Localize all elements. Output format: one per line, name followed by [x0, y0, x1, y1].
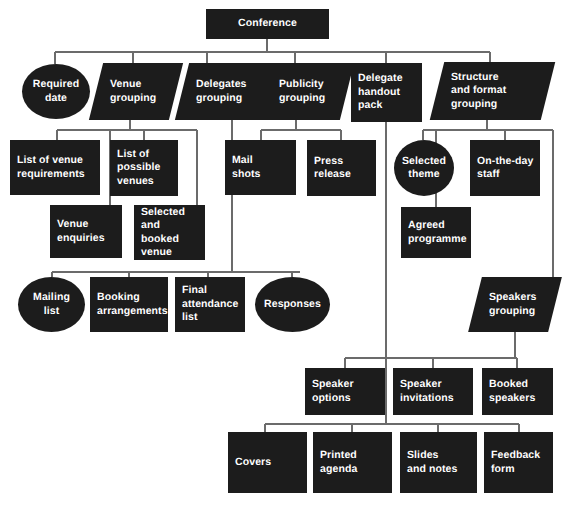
node-publicity-grouping[interactable]: Publicitygrouping	[265, 63, 347, 120]
node-conference[interactable]: Conference	[206, 9, 329, 39]
node-label: Selected andbookedvenue	[141, 206, 201, 260]
node-final-attendance-list[interactable]: Finalattendancelist	[175, 277, 245, 332]
node-label: Covers	[235, 456, 303, 470]
node-label: List of venuerequirements	[17, 154, 96, 181]
node-label: Speakersgrouping	[475, 291, 555, 318]
node-mailing-list[interactable]: Mailinglist	[18, 277, 85, 332]
node-label: Bookingarrangements	[97, 291, 164, 318]
node-feedback-form[interactable]: Feedbackform	[484, 432, 553, 493]
node-responses[interactable]: Responses	[255, 277, 330, 332]
node-structure-and-format-grouping[interactable]: Structureand formatgrouping	[437, 62, 548, 120]
node-label: Venuegrouping	[96, 78, 176, 105]
node-label: Slidesand notes	[407, 449, 473, 476]
node-speaker-invitations[interactable]: Speakerinvitations	[393, 368, 473, 415]
node-label: Publicitygrouping	[265, 78, 347, 105]
node-venue-grouping[interactable]: Venuegrouping	[96, 63, 176, 120]
node-on-the-day-staff[interactable]: On-the-daystaff	[470, 140, 540, 196]
node-label: Finalattendancelist	[182, 284, 241, 325]
node-selected-theme[interactable]: Selectedtheme	[394, 140, 454, 196]
node-label: Conference	[206, 17, 329, 31]
node-label: On-the-daystaff	[477, 155, 536, 182]
node-label: Venueenquiries	[57, 218, 118, 245]
node-covers[interactable]: Covers	[228, 432, 307, 493]
node-speakers-grouping[interactable]: Speakersgrouping	[475, 277, 555, 332]
node-label: Agreedprogramme	[408, 219, 467, 246]
node-label: Selectedtheme	[394, 155, 454, 182]
node-printed-agenda[interactable]: Printedagenda	[313, 432, 392, 493]
node-delegates-grouping[interactable]: Delegatesgrouping	[182, 63, 266, 120]
node-label: Printedagenda	[320, 449, 388, 476]
node-label: Delegatesgrouping	[182, 78, 266, 105]
node-label: Mailinglist	[18, 291, 85, 318]
node-label: Speakerinvitations	[400, 378, 469, 405]
node-label: Pressrelease	[314, 155, 372, 182]
node-label: Mailshots	[232, 154, 292, 181]
node-required-date[interactable]: Requireddate	[22, 64, 90, 119]
node-list-of-venue-requirements[interactable]: List of venuerequirements	[10, 140, 100, 195]
node-list-of-possible-venues[interactable]: List ofpossiblevenues	[110, 140, 178, 196]
node-agreed-programme[interactable]: Agreedprogramme	[401, 207, 471, 258]
node-selected-and-booked-venue[interactable]: Selected andbookedvenue	[134, 205, 205, 260]
node-label: Speakeroptions	[312, 378, 381, 405]
node-label: Structureand formatgrouping	[437, 71, 548, 112]
node-label: List ofpossiblevenues	[117, 148, 174, 189]
node-delegate-handout-pack[interactable]: Delegatehandoutpack	[351, 63, 422, 122]
node-venue-enquiries[interactable]: Venueenquiries	[50, 205, 122, 258]
node-label: Delegatehandoutpack	[358, 72, 418, 113]
node-label: Responses	[255, 298, 330, 312]
node-speaker-options[interactable]: Speakeroptions	[305, 368, 385, 415]
node-mail-shots[interactable]: Mailshots	[225, 140, 296, 195]
node-press-release[interactable]: Pressrelease	[307, 140, 376, 196]
node-label: Feedbackform	[491, 449, 549, 476]
node-slides-and-notes[interactable]: Slidesand notes	[400, 432, 477, 493]
node-booking-arrangements[interactable]: Bookingarrangements	[90, 277, 168, 332]
diagram-canvas: Conference Requireddate Venuegrouping De…	[0, 0, 567, 506]
node-label: Bookedspeakers	[489, 378, 549, 405]
node-booked-speakers[interactable]: Bookedspeakers	[482, 368, 553, 415]
node-label: Requireddate	[22, 78, 90, 105]
